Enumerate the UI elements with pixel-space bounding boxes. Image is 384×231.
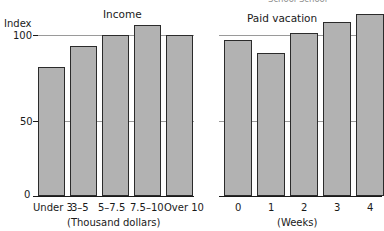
income-bar-5-7.5 (102, 35, 129, 196)
income-y-tick-0: 0 (24, 190, 30, 200)
paid-vacation-bar-4 (356, 14, 384, 196)
income-x-label-2: 5–7.5 (98, 203, 125, 213)
paid-vacation-chart-panel: Paid vacation 0 1 2 3 4 (Weeks) (195, 0, 382, 231)
paid-vacation-x-label-2: 2 (301, 203, 307, 213)
paid-vacation-bar-2 (290, 33, 318, 196)
income-bar-under-3 (38, 67, 65, 196)
income-chart-panel: Income Index 100 50 0 Under 3 3–5 5–7.5 … (0, 0, 195, 231)
income-bar-over-10 (166, 35, 193, 196)
paid-vacation-bar-3 (323, 22, 351, 196)
income-y-tick-50: 50 (20, 117, 33, 127)
income-x-axis-unit: (Thousand dollars) (67, 218, 160, 228)
paid-vacation-chart-title: Paid vacation (247, 13, 317, 24)
income-y-axis-caption: Index (4, 19, 32, 29)
income-x-label-0: Under 3 (33, 203, 73, 213)
paid-vacation-x-label-1: 1 (268, 203, 274, 213)
income-x-label-1: 3–5 (71, 203, 89, 213)
income-chart-title: Income (103, 9, 142, 20)
paid-vacation-x-axis (219, 196, 382, 197)
income-bar-7.5-10 (134, 25, 161, 196)
income-x-label-3: 7.5–10 (130, 203, 164, 213)
paid-vacation-x-label-3: 3 (334, 203, 340, 213)
income-bar-3-5 (70, 46, 97, 196)
paid-vacation-x-label-0: 0 (235, 203, 241, 213)
income-y-tick-100: 100 (13, 31, 32, 41)
paid-vacation-x-label-4: 4 (367, 203, 373, 213)
paid-vacation-bar-0 (224, 40, 252, 196)
income-x-axis (33, 196, 194, 197)
paid-vacation-bar-1 (257, 53, 285, 196)
paid-vacation-x-axis-unit: (Weeks) (277, 218, 317, 228)
